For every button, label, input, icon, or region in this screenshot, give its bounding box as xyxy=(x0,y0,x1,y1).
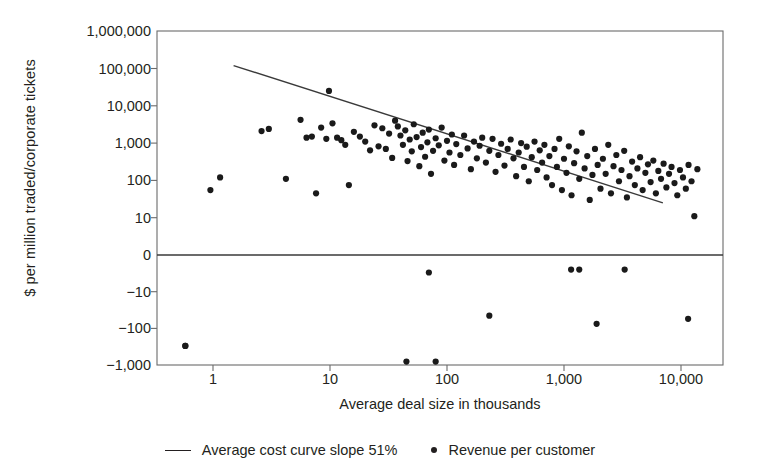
data-point xyxy=(666,171,672,177)
data-point xyxy=(640,187,646,193)
scatter-series xyxy=(182,88,700,365)
data-point xyxy=(677,167,683,173)
data-point xyxy=(403,358,409,364)
data-point xyxy=(446,149,452,155)
data-point xyxy=(579,130,585,136)
data-point xyxy=(694,166,700,172)
data-point xyxy=(346,182,352,188)
data-point xyxy=(351,129,357,135)
data-point xyxy=(468,166,474,172)
data-point xyxy=(416,163,422,169)
data-point xyxy=(568,267,574,273)
data-point xyxy=(616,178,622,184)
data-point xyxy=(546,153,552,159)
data-point xyxy=(422,154,428,160)
data-point xyxy=(430,148,436,154)
data-point xyxy=(632,182,638,188)
data-point xyxy=(571,160,577,166)
data-point xyxy=(207,187,213,193)
data-point xyxy=(465,145,471,151)
data-point xyxy=(426,269,432,275)
data-point xyxy=(471,138,477,144)
data-point xyxy=(451,162,457,168)
data-point xyxy=(375,143,381,149)
data-point xyxy=(605,142,611,148)
data-point xyxy=(433,358,439,364)
data-point xyxy=(544,174,550,180)
x-tick-label: 10,000 xyxy=(621,372,741,387)
data-point xyxy=(182,343,188,349)
data-point xyxy=(444,138,450,144)
data-point xyxy=(323,136,329,142)
data-point xyxy=(595,162,601,168)
data-point xyxy=(461,132,467,138)
legend-label-scatter: Revenue per customer xyxy=(448,442,595,458)
data-point xyxy=(534,167,540,173)
data-point xyxy=(342,142,348,148)
data-point xyxy=(674,192,680,198)
data-point xyxy=(483,160,489,166)
data-point xyxy=(318,125,324,131)
data-point xyxy=(420,130,426,136)
x-tick-label: 1,000 xyxy=(504,372,624,387)
dot-marker-icon xyxy=(431,447,437,453)
data-point xyxy=(418,144,424,150)
data-point xyxy=(453,141,459,147)
data-point xyxy=(584,153,590,159)
data-point xyxy=(626,173,632,179)
data-point xyxy=(587,197,593,203)
data-point xyxy=(637,154,643,160)
chart-legend: Average cost curve slope 51% Revenue per… xyxy=(0,437,760,463)
trend-line xyxy=(234,66,663,203)
data-point xyxy=(383,146,389,152)
data-point xyxy=(561,156,567,162)
data-point xyxy=(650,157,656,163)
data-point xyxy=(501,162,507,168)
data-point xyxy=(389,155,395,161)
data-point xyxy=(379,125,385,131)
data-point xyxy=(634,165,640,171)
data-point xyxy=(217,174,223,180)
data-point xyxy=(258,128,264,134)
data-point xyxy=(371,122,377,128)
data-point xyxy=(303,135,309,141)
data-point xyxy=(498,141,504,147)
data-point xyxy=(531,138,537,144)
data-point xyxy=(648,179,654,185)
x-axis-title: Average deal size in thousands xyxy=(157,396,723,412)
data-point xyxy=(508,136,514,142)
data-point xyxy=(386,130,392,136)
data-point xyxy=(655,168,661,174)
data-point xyxy=(436,142,442,148)
legend-item-scatter: Revenue per customer xyxy=(431,442,595,458)
data-point xyxy=(407,136,413,142)
data-point xyxy=(426,127,432,133)
data-point xyxy=(568,192,574,198)
data-point xyxy=(329,120,335,126)
data-point xyxy=(691,213,697,219)
x-tick-label: 100 xyxy=(387,372,507,387)
data-point xyxy=(600,156,606,162)
data-point xyxy=(524,144,530,150)
data-point xyxy=(362,138,368,144)
data-point xyxy=(603,171,609,177)
plot-frame xyxy=(157,31,723,365)
data-point xyxy=(516,149,522,155)
data-point xyxy=(513,173,519,179)
legend-item-trendline: Average cost curve slope 51% xyxy=(165,442,398,458)
data-point xyxy=(597,186,603,192)
x-tick-label: 10 xyxy=(270,372,390,387)
data-point xyxy=(685,316,691,322)
data-point xyxy=(549,182,555,188)
data-point xyxy=(668,164,674,170)
data-point xyxy=(624,194,630,200)
data-point xyxy=(526,178,532,184)
data-point xyxy=(551,146,557,152)
data-point xyxy=(449,131,455,137)
data-point xyxy=(645,161,651,167)
data-point xyxy=(486,148,492,154)
data-point xyxy=(671,180,677,186)
data-point xyxy=(433,135,439,141)
data-point xyxy=(658,176,664,182)
data-point xyxy=(594,321,600,327)
